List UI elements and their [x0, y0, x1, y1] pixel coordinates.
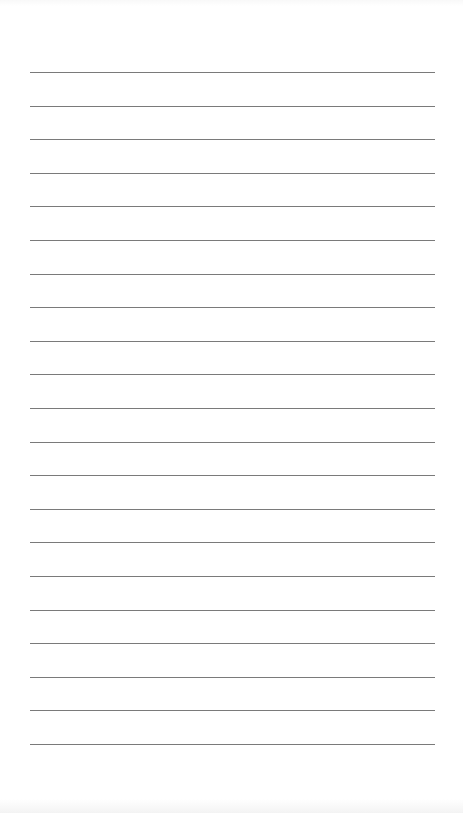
ruled-line [30, 374, 435, 375]
ruled-line [30, 408, 435, 409]
lined-page [0, 0, 463, 813]
ruled-line [30, 72, 435, 73]
ruled-line [30, 307, 435, 308]
ruled-line [30, 610, 435, 611]
ruled-line [30, 341, 435, 342]
top-edge-bleed [0, 0, 463, 6]
ruled-line [30, 240, 435, 241]
ruled-line [30, 542, 435, 543]
ruled-line [30, 173, 435, 174]
ruled-line [30, 643, 435, 644]
ruled-line [30, 710, 435, 711]
ruled-line [30, 206, 435, 207]
ruled-line [30, 509, 435, 510]
ruled-line [30, 106, 435, 107]
ruled-line [30, 139, 435, 140]
ruled-line [30, 677, 435, 678]
ruled-line [30, 576, 435, 577]
ruled-line [30, 442, 435, 443]
ruled-line [30, 274, 435, 275]
ruled-line [30, 475, 435, 476]
ruled-line [30, 744, 435, 745]
bottom-edge-bleed [0, 799, 463, 813]
